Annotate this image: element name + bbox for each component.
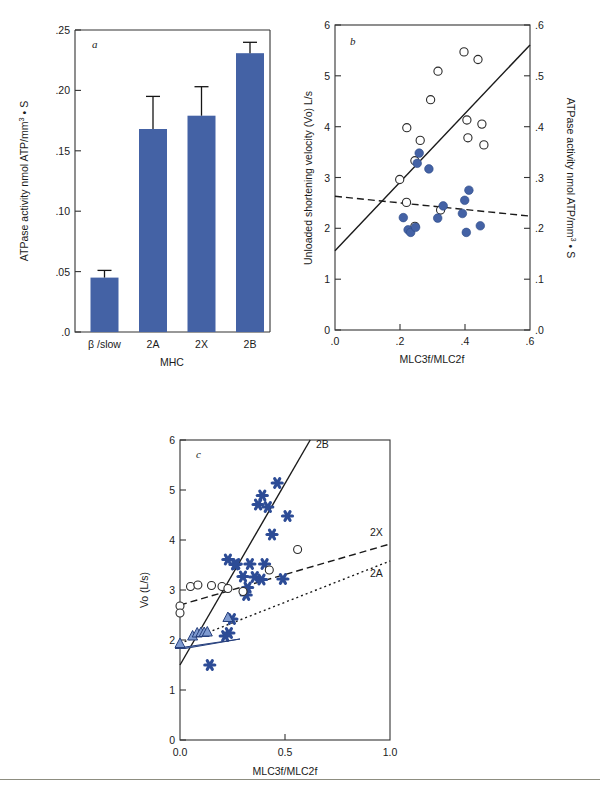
panel-c-tag: c <box>196 448 201 460</box>
panel-c-ytick-1: 1 <box>169 684 175 696</box>
panel-b-ytickR-0: .0 <box>535 324 544 336</box>
panel-a: .0 .05 .10 .15 .20 .25 <box>0 0 300 400</box>
panel-c-ytick-6: 6 <box>169 434 175 446</box>
errorbar-2b <box>243 42 257 53</box>
panel-a-x-axis-title: MHC <box>160 356 184 368</box>
panel-a-ytick-2: .10 <box>55 205 70 217</box>
panel-b-ytickR-2: .2 <box>535 222 544 234</box>
svg-text:Vo (L/s): Vo (L/s) <box>138 572 150 608</box>
panel-a-xtick-2b: 2B <box>244 338 257 350</box>
panel-b-xtick-0: .0 <box>331 335 340 347</box>
panel-b-xtick-3: .6 <box>526 335 535 347</box>
panel-a-xtick-2x: 2X <box>195 338 208 350</box>
panel-b-ytickL-3: 3 <box>324 172 330 184</box>
panel-b-right-y-axis-title: ATPase activity nmol ATP/mm3 • S <box>565 98 578 258</box>
panel-a-ytick-4: .20 <box>55 84 70 96</box>
errorbar-beta-slow <box>98 270 112 277</box>
figure-container: .0 .05 .10 .15 .20 .25 <box>0 0 600 792</box>
panel-c-ytick-2: 2 <box>169 634 175 646</box>
panel-b-ytickR-4: .4 <box>535 121 544 133</box>
panel-b-ytickL-6: 6 <box>324 19 330 31</box>
panel-b-ytickL-2: 2 <box>324 222 330 234</box>
panel-c-ytick-5: 5 <box>169 484 175 496</box>
panel-a-tag: a <box>92 38 98 50</box>
panel-b-ytickL-0: 0 <box>324 324 330 336</box>
panel-b-ytickL-4: 4 <box>324 121 330 133</box>
panel-c-line-label-2x: 2X <box>370 526 383 538</box>
panel-c-star-series <box>205 479 293 670</box>
panel-a-ytick-3: .15 <box>55 145 70 157</box>
panel-a-xtick-2a: 2A <box>147 338 160 350</box>
panel-b-ytickR-1: .1 <box>535 273 544 285</box>
panel-c-xtick-1: 0.5 <box>278 746 293 758</box>
panel-b-ytickL-1: 1 <box>324 273 330 285</box>
panel-b-ytickR-5: .5 <box>535 70 544 82</box>
panel-c-y-ticks <box>180 440 186 740</box>
panel-b-right-y-ticks <box>524 25 530 330</box>
panel-b-x-axis-title: MLC3f/MLC2f <box>400 353 465 365</box>
bar-2x <box>188 116 216 332</box>
bar-2a <box>139 129 167 332</box>
panel-a-ytick-5: .25 <box>55 24 70 36</box>
panel-c-ytick-4: 4 <box>169 534 175 546</box>
panel-b-x-ticks <box>400 324 465 330</box>
svg-text:ATPase activity nmol ATP/mm3 •: ATPase activity nmol ATP/mm3 • S <box>17 101 30 261</box>
panel-a-y-axis-title-main: ATPase activity nmol ATP/mm <box>18 121 30 261</box>
panel-b-right-y-title-main: ATPase activity nmol ATP/mm <box>565 98 577 238</box>
panel-c: 0 1 2 3 4 5 6 0.0 0.5 1.0 MLC3f/MLC2f Vo… <box>120 400 490 780</box>
panel-c-xtick-2: 1.0 <box>383 746 398 758</box>
panel-a-xtick-beta-slow: β /slow <box>88 338 121 350</box>
errorbar-2a <box>146 96 160 129</box>
panel-b-frame <box>335 25 530 330</box>
svg-text:ATPase activity nmol ATP/mm3 •: ATPase activity nmol ATP/mm3 • S <box>565 98 578 258</box>
panel-b-plot: 0 1 2 3 4 5 6 .0 .1 .2 .3 .4 .5 .6 <box>300 0 600 400</box>
panel-c-line-label-2a: 2A <box>370 567 383 579</box>
panel-a-y-axis-title: ATPase activity nmol ATP/mm3 • S <box>17 101 30 261</box>
panel-b-left-y-axis-title: Unloaded shortening velocity (Vo) L/s <box>302 91 314 265</box>
panel-a-y-axis-title-tail: • S <box>18 101 30 118</box>
panel-a-ytick-1: .05 <box>55 266 70 278</box>
panel-b-tag: b <box>350 35 356 47</box>
panel-c-ytick-3: 3 <box>169 584 175 596</box>
panel-c-line-label-2b: 2B <box>316 438 329 450</box>
panel-b-ytickL-5: 5 <box>324 70 330 82</box>
bar-beta-slow <box>91 278 119 332</box>
footer-divider <box>0 779 600 780</box>
panel-a-y-ticks <box>75 30 81 332</box>
panel-c-xtick-0: 0.0 <box>173 746 188 758</box>
panel-b-right-y-title-tail: • S <box>565 242 577 259</box>
errorbar-2x <box>195 87 209 116</box>
panel-b-xtick-1: .2 <box>396 335 405 347</box>
panel-c-y-axis-title: Vo (L/s) <box>138 572 150 608</box>
panel-b-atpase-regression-line <box>335 196 530 216</box>
panel-b-ytickR-6: .6 <box>535 19 544 31</box>
panel-b-left-y-ticks <box>335 25 341 330</box>
bar-2b <box>236 53 264 332</box>
svg-text:Unloaded shortening velocity (: Unloaded shortening velocity (Vo) L/s <box>302 91 314 265</box>
panel-b-velocity-regression-line <box>335 45 530 251</box>
panel-c-ytick-0: 0 <box>169 734 175 746</box>
panel-c-plot: 0 1 2 3 4 5 6 0.0 0.5 1.0 MLC3f/MLC2f Vo… <box>120 400 490 780</box>
panel-b-xtick-2: .4 <box>461 335 470 347</box>
panel-b: 0 1 2 3 4 5 6 .0 .1 .2 .3 .4 .5 .6 <box>300 0 600 400</box>
panel-a-ytick-0: .0 <box>61 326 70 338</box>
panel-a-plot: .0 .05 .10 .15 .20 .25 <box>0 0 300 400</box>
panel-c-x-axis-title: MLC3f/MLC2f <box>253 765 318 777</box>
panel-b-ytickR-3: .3 <box>535 172 544 184</box>
